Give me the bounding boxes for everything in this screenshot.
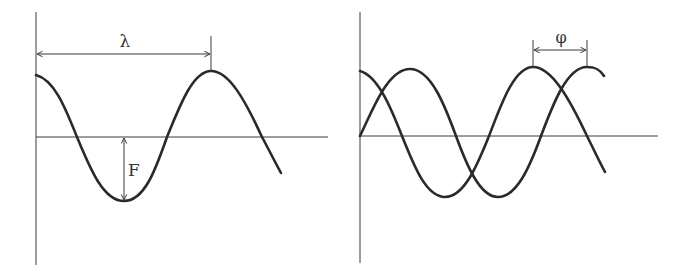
right-panel: φ	[360, 12, 658, 263]
wave-diagram: λ F φ	[0, 0, 690, 274]
wave-b	[360, 67, 604, 197]
left-panel: λ F	[36, 12, 328, 265]
wavelength-label: λ	[120, 31, 131, 51]
amplitude-label: F	[128, 160, 140, 180]
phase-label: φ	[555, 28, 566, 47]
wave-a	[360, 67, 605, 197]
left-wave	[36, 71, 281, 201]
